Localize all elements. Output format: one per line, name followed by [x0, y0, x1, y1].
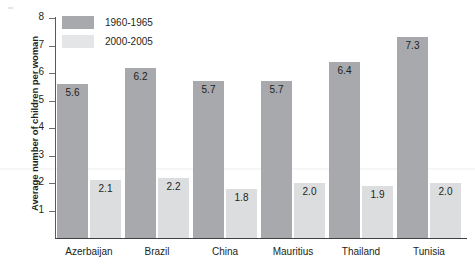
- legend: 1960-1965 2000-2005: [62, 14, 153, 52]
- legend-label: 1960-1965: [105, 17, 153, 28]
- dark-swatch-icon: [62, 16, 94, 29]
- bar: 2.2: [158, 178, 189, 239]
- bar: 2.0: [430, 183, 461, 238]
- bar: 5.6: [57, 84, 88, 238]
- y-tick: [49, 18, 55, 19]
- bar-value-label: 1.9: [362, 189, 393, 200]
- y-tick-label: 4: [18, 121, 44, 132]
- bar-value-label: 6.4: [329, 65, 360, 76]
- bar-value-label: 2.1: [90, 183, 121, 194]
- bar-value-label: 2.0: [294, 186, 325, 197]
- y-tick: [49, 128, 55, 129]
- bar: 5.7: [261, 81, 292, 238]
- bar: 6.4: [329, 62, 360, 238]
- bar: 1.9: [362, 186, 393, 238]
- legend-item-1960-1965: 1960-1965: [62, 14, 153, 31]
- legend-item-2000-2005: 2000-2005: [62, 33, 153, 50]
- legend-label: 2000-2005: [105, 36, 153, 47]
- y-tick-label: 8: [18, 11, 44, 22]
- bar-value-label: 5.6: [57, 87, 88, 98]
- y-tick: [49, 183, 55, 184]
- bar-value-label: 7.3: [397, 40, 428, 51]
- y-tick-label: 7: [18, 39, 44, 50]
- bar-value-label: 1.8: [226, 192, 257, 203]
- y-tick: [49, 73, 55, 74]
- bar: 2.0: [294, 183, 325, 238]
- bar-value-label: 6.2: [125, 71, 156, 82]
- bar: 6.2: [125, 68, 156, 239]
- y-tick-label: 2: [18, 176, 44, 187]
- y-tick: [49, 101, 55, 102]
- bar-chart: Average number of children per woman 876…: [0, 0, 475, 266]
- x-axis-line: [55, 238, 467, 239]
- bar: 7.3: [397, 37, 428, 238]
- bar: 5.7: [193, 81, 224, 238]
- y-tick: [49, 46, 55, 47]
- y-tick-label: 5: [18, 94, 44, 105]
- y-tick: [49, 211, 55, 212]
- y-tick-label: 3: [18, 149, 44, 160]
- bar-value-label: 5.7: [193, 84, 224, 95]
- light-swatch-icon: [62, 35, 94, 48]
- category-label: Tunisia: [384, 246, 474, 257]
- y-tick-label: 6: [18, 66, 44, 77]
- scan-speck: [8, 7, 13, 9]
- bar-value-label: 5.7: [261, 84, 292, 95]
- bar-value-label: 2.0: [430, 186, 461, 197]
- bar: 1.8: [226, 189, 257, 239]
- bar-value-label: 2.2: [158, 181, 189, 192]
- bar: 2.1: [90, 180, 121, 238]
- y-tick-label: 1: [18, 204, 44, 215]
- y-tick: [49, 156, 55, 157]
